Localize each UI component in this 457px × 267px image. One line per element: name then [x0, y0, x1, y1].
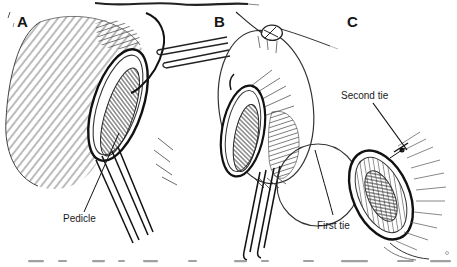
clamp-handles-a	[96, 147, 153, 243]
forceps	[157, 37, 230, 68]
second-tie-leader-line	[373, 103, 407, 150]
tissue-tuft-a	[154, 138, 177, 185]
surgical-figure: A B C Pedicle First tie Second tie	[0, 0, 457, 267]
panel-letter-b: B	[214, 13, 225, 30]
first-tie-leader-line	[315, 150, 333, 215]
panel-c-illustration	[336, 103, 446, 260]
panel-letter-c: C	[347, 13, 358, 30]
label-pedicle: Pedicle	[63, 213, 96, 224]
pedicle-stump	[336, 141, 425, 250]
illustration-canvas	[0, 0, 457, 267]
label-second-tie: Second tie	[341, 90, 388, 101]
first-tie-circle	[277, 144, 359, 226]
label-first-tie: First tie	[317, 220, 350, 231]
panel-letter-a: A	[17, 13, 28, 30]
tissue-bulge	[268, 111, 299, 178]
panel-a-illustration	[6, 13, 230, 243]
cropped-caption-line	[28, 252, 451, 263]
clamp-handles-b	[244, 166, 280, 260]
